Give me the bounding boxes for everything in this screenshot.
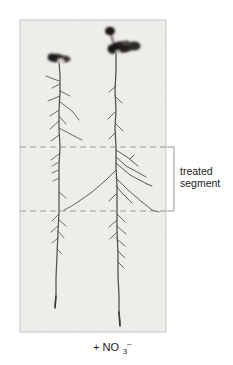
caption-superscript: – — [127, 339, 132, 348]
treated-segment-label-line2: segment — [180, 177, 220, 189]
figure-container: treated segment + NO 3 – — [0, 0, 233, 365]
caption-subscript: 3 — [123, 347, 127, 356]
caption-prefix: + NO — [93, 341, 119, 353]
left-root-tip — [55, 296, 56, 308]
right-root-tip — [119, 312, 120, 326]
scan-panel — [20, 20, 166, 332]
root-scan-figure: treated segment + NO 3 – — [0, 0, 233, 365]
treated-segment-label-line1: treated — [180, 165, 213, 177]
